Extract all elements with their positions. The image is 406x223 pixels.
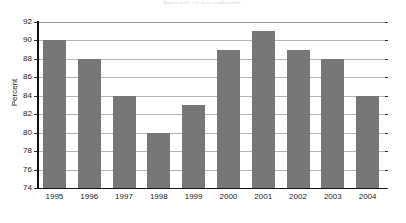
y-axis-tick-label: 78 (23, 147, 32, 155)
y-axis-tick-label: 84 (23, 92, 32, 100)
x-axis-tick-label: 1999 (185, 192, 203, 202)
x-axis-tick-label: 2002 (289, 192, 307, 202)
y-axis-tick-label: 88 (23, 55, 32, 63)
bar-chart: Percent of households Percent 7476788082… (0, 0, 406, 223)
bar[interactable] (43, 40, 66, 188)
y-axis-tick-mark-right (385, 133, 388, 134)
chart-title-remnant: Percent of households (133, 0, 271, 4)
x-axis-tick-label: 1995 (45, 192, 63, 202)
y-axis-tick-mark-right (385, 170, 388, 171)
y-axis-tick-label: 92 (23, 18, 32, 26)
bar[interactable] (182, 105, 205, 188)
y-axis-tick-label: 76 (23, 166, 32, 174)
bar[interactable] (287, 50, 310, 188)
y-axis-tick-mark-right (385, 114, 388, 115)
bar[interactable] (321, 59, 344, 188)
y-axis-tick-label: 82 (23, 110, 32, 118)
plot-area (37, 22, 385, 188)
y-axis-tick-label: 86 (23, 73, 32, 81)
y-axis-tick-mark-right (385, 22, 388, 23)
x-axis-tick-labels: 1995199619971998199920002001200220032004 (37, 192, 385, 206)
y-axis-tick-label: 74 (23, 184, 32, 192)
y-axis-tick-label: 80 (23, 129, 32, 137)
x-axis-tick-label: 2000 (219, 192, 237, 202)
bar[interactable] (217, 50, 240, 188)
y-axis-tick-mark-right (385, 151, 388, 152)
bar[interactable] (356, 96, 379, 188)
y-axis-tick-mark-right (385, 96, 388, 97)
x-axis-tick-label: 1996 (80, 192, 98, 202)
bar[interactable] (78, 59, 101, 188)
y-axis-tick-labels: 74767880828486889092 (6, 22, 32, 188)
x-axis-tick-label: 2001 (254, 192, 272, 202)
y-axis-tick-label: 90 (23, 36, 32, 44)
bar[interactable] (252, 31, 275, 188)
x-axis-tick-label: 1997 (115, 192, 133, 202)
bars-layer (37, 22, 385, 188)
bar[interactable] (147, 133, 170, 188)
y-axis-tick-mark-right (385, 77, 388, 78)
bar[interactable] (113, 96, 136, 188)
x-axis-tick-label: 1998 (150, 192, 168, 202)
y-axis-tick-mark-right (385, 40, 388, 41)
x-axis-tick-label: 2003 (324, 192, 342, 202)
y-axis-tick-mark-right (385, 59, 388, 60)
x-axis-tick-label: 2004 (359, 192, 377, 202)
